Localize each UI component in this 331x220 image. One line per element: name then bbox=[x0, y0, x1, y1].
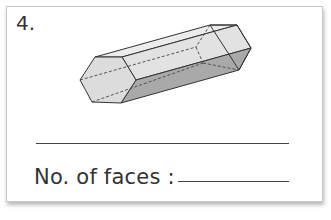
answer-line-shape-name[interactable] bbox=[36, 143, 289, 144]
answer-line-faces[interactable] bbox=[178, 181, 289, 182]
faces-label: No. of faces : bbox=[34, 165, 175, 189]
